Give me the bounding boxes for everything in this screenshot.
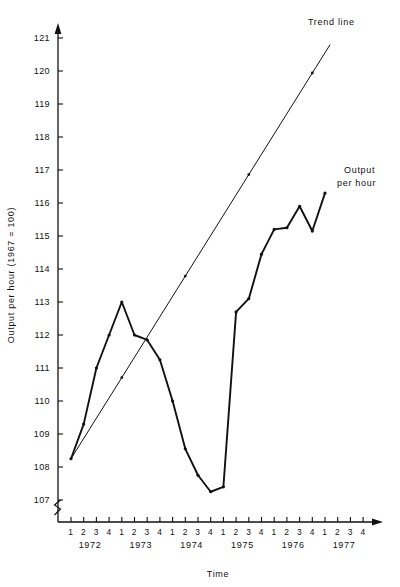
x-axis-quarter-label: 4 [157,527,162,537]
line-chart: 1071081091101111121131141151161171181191… [0,0,400,587]
x-axis-quarter-label: 3 [94,527,99,537]
x-axis-year-label: 1972 [79,540,102,550]
x-axis-year-label: 1977 [333,540,356,550]
data-point-marker [82,423,85,426]
data-point-marker [184,447,187,450]
y-axis-tick-label: 117 [34,165,50,175]
x-axis-quarter-label: 1 [119,527,124,537]
x-axis-quarter-label: 2 [335,527,340,537]
trend-line-series [71,45,330,459]
x-axis-quarter-label: 1 [272,527,277,537]
y-axis-ticks [58,38,63,500]
x-axis-quarter-label: 1 [221,527,226,537]
y-axis-tick-label: 119 [34,99,50,109]
x-axis-ticks [71,517,363,522]
data-point-marker [158,358,161,361]
trend-point-marker [247,173,250,176]
data-point-marker [222,485,225,488]
trend-point-marker [311,72,314,75]
y-axis-title: Output per hour (1967 = 100) [6,207,16,343]
x-axis-year-label: 1976 [282,540,305,550]
trend-point-marker [184,275,187,278]
x-axis-quarter-label: 2 [284,527,289,537]
y-axis-tick-label: 118 [34,132,50,142]
data-point-marker [323,192,326,195]
x-axis-year-label: 1975 [231,540,254,550]
data-point-marker [171,399,174,402]
x-axis-quarter-label: 4 [360,527,365,537]
axes-group [55,23,384,525]
data-point-marker [133,333,136,336]
trend-point-marker [120,376,123,379]
data-point-marker [285,226,288,229]
x-axis-quarter-label: 3 [145,527,150,537]
data-point-marker [108,333,111,336]
trend-line-path [71,45,330,459]
y-axis-tick-label: 107 [34,495,50,505]
x-axis-quarter-label: 1 [68,527,73,537]
data-point-marker [95,366,98,369]
output-per-hour-path [71,193,325,492]
x-axis-quarter-label: 2 [233,527,238,537]
x-axis-quarter-label: 2 [183,527,188,537]
x-axis-quarter-label: 4 [310,527,315,537]
data-point-marker [298,205,301,208]
x-axis-year-label: 1974 [180,540,203,550]
data-point-marker [273,228,276,231]
x-axis-title: Time [207,569,229,579]
y-axis-tick-label: 110 [34,396,50,406]
x-axis-quarter-label: 1 [322,527,327,537]
x-axis-quarter-label: 1 [170,527,175,537]
data-point-marker [120,300,123,303]
y-axis-tick-label: 120 [34,66,50,76]
x-axis-quarter-label: 3 [348,527,353,537]
x-axis-quarter-label: 3 [195,527,200,537]
y-axis-tick-label: 108 [34,462,50,472]
y-axis-tick-label: 114 [34,264,50,274]
output-per-hour-annotation-line2: per hour [337,178,376,188]
x-axis-quarter-label: 3 [246,527,251,537]
y-axis-tick-label: 115 [34,231,50,241]
x-axis-quarter-label: 3 [297,527,302,537]
data-point-marker [247,297,250,300]
data-point-marker [311,229,314,232]
y-axis-tick-label: 112 [34,330,50,340]
data-point-marker [260,253,263,256]
x-axis-year-labels: 197219731974197519761977 [79,540,356,550]
x-axis-quarter-label: 2 [81,527,86,537]
output-per-hour-annotation-line1: Output [344,165,375,175]
x-axis-year-label: 1973 [129,540,152,550]
chart-container: 1071081091101111121131141151161171181191… [0,0,400,587]
y-axis-tick-label: 109 [34,429,50,439]
y-axis-tick-label: 121 [34,33,50,43]
y-axis-tick-labels: 1071081091101111121131141151161171181191… [34,33,50,505]
data-point-marker [235,310,238,313]
y-axis-tick-label: 113 [34,297,50,307]
data-point-marker [146,338,149,341]
output-per-hour-series [71,193,325,492]
x-axis-quarter-label: 2 [132,527,137,537]
data-point-marker [69,457,72,460]
data-point-markers [69,72,326,494]
y-axis-tick-label: 111 [35,363,50,373]
data-point-marker [196,474,199,477]
trend-line-annotation: Trend line [308,17,355,27]
data-point-marker [209,490,212,493]
x-axis-quarter-labels: 123412341234123412341234 [68,527,365,537]
x-axis-quarter-label: 4 [259,527,264,537]
x-axis-quarter-label: 4 [208,527,213,537]
y-axis-tick-label: 116 [34,198,50,208]
x-axis-quarter-label: 4 [106,527,111,537]
